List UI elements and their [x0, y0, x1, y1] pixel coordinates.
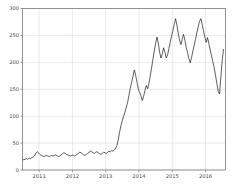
y-tick-label: 50 — [3, 140, 19, 146]
y-tick-label: 100 — [3, 113, 19, 119]
y-tick-label: 150 — [3, 86, 19, 92]
x-tick-label: 2014 — [127, 173, 151, 179]
chart-plot-svg — [0, 0, 239, 188]
x-tick-label: 2013 — [94, 173, 118, 179]
x-tick-label: 2016 — [194, 173, 218, 179]
x-tick-label: 2012 — [60, 173, 84, 179]
y-tick-label: 200 — [3, 59, 19, 65]
y-tick-label: 300 — [3, 5, 19, 11]
chart-figure: 050100150200250300 201120122013201420152… — [0, 0, 239, 188]
x-tick-label: 2015 — [160, 173, 184, 179]
y-tick-label: 0 — [3, 167, 19, 173]
y-tick-label: 250 — [3, 32, 19, 38]
x-tick-label: 2011 — [27, 173, 51, 179]
